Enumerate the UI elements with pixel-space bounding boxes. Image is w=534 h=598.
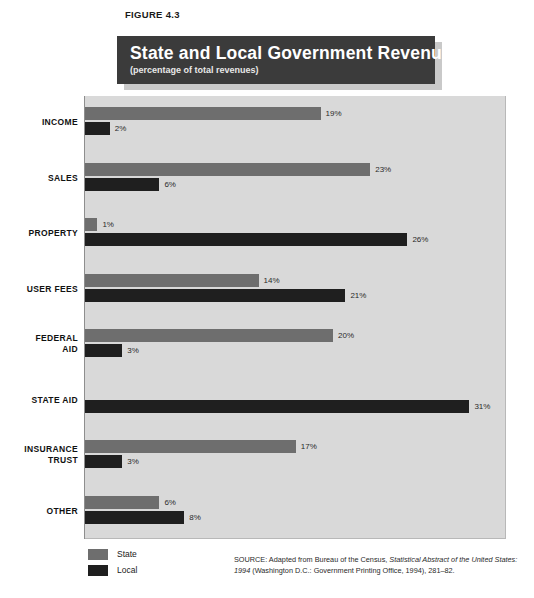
bar-state: 19% [85,107,342,120]
bar-state: 20% [85,329,354,342]
bar-rect-state [85,107,321,120]
bar-local: 3% [85,344,139,357]
figure-label: FIGURE 4.3 [125,9,180,20]
bar-value-label: 20% [338,331,354,340]
bar-local: 26% [85,233,428,246]
bar-rect-state [85,218,97,231]
bar-row: STATE AID31% [0,378,534,422]
category-label: STATE AID [0,394,78,405]
bar-row: PROPERTY1%26% [0,211,534,255]
bar-value-label: 14% [264,276,280,285]
bar-value-label: 3% [127,346,139,355]
bar-value-label: 1% [102,220,114,229]
bar-row: FEDERALAID20%3% [0,322,534,366]
bar-rect-state [85,163,370,176]
bar-value-label: 31% [474,402,490,411]
bar-state: 6% [85,496,176,509]
bar-row: INCOME19%2% [0,100,534,144]
bar-value-label: 6% [164,180,176,189]
category-label: USER FEES [0,283,78,294]
bar-local: 31% [85,400,490,413]
bar-row: USER FEES14%21% [0,267,534,311]
category-label: PROPERTY [0,228,78,239]
bar-rect-local [85,178,159,191]
bar-rect-state [85,496,159,509]
legend-item: State [88,547,137,561]
bar-value-label: 6% [164,498,176,507]
chart-title: State and Local Government Revenues [130,43,435,63]
bar-local: 6% [85,178,176,191]
bar-rect-local [85,511,184,524]
bar-state: 23% [85,163,391,176]
legend-swatch-local [88,565,108,576]
bar-rect-local [85,233,407,246]
bar-row: OTHER6%8% [0,489,534,533]
category-label: FEDERALAID [0,333,78,355]
bar-value-label: 3% [127,457,139,466]
source-prefix: SOURCE: Adapted from Bureau of the Censu… [234,555,389,564]
bar-state: 1% [85,218,114,231]
category-label: INCOME [0,117,78,128]
bar-row: SALES23%6% [0,156,534,200]
legend-swatch-state [88,549,108,560]
bar-rect-state [85,440,296,453]
bar-value-label: 19% [326,109,342,118]
bar-local: 21% [85,289,366,302]
legend-item: Local [88,563,137,577]
bar-value-label: 8% [189,513,201,522]
bar-value-label: 2% [115,124,127,133]
category-label: INSURANCETRUST [0,444,78,466]
bar-state: 17% [85,440,317,453]
legend-label: Local [117,565,137,575]
bar-rect-local [85,455,122,468]
bar-value-label: 17% [301,442,317,451]
bar-local: 3% [85,455,139,468]
bar-row: INSURANCETRUST17%3% [0,433,534,477]
legend-label: State [117,549,137,559]
bar-rect-local [85,344,122,357]
source-suffix: (Washington D.C.: Government Printing Of… [250,566,454,575]
bar-rect-state [85,329,333,342]
bar-rect-state [85,274,259,287]
chart-legend: StateLocal [88,547,137,579]
bar-rect-local [85,289,345,302]
bar-value-label: 21% [350,291,366,300]
bar-rect-local [85,122,110,135]
category-label: SALES [0,172,78,183]
source-note: SOURCE: Adapted from Bureau of the Censu… [234,555,524,576]
bar-local: 2% [85,122,126,135]
bar-rect-local [85,400,469,413]
bar-value-label: 23% [375,165,391,174]
bar-state: 14% [85,274,280,287]
bar-value-label: 26% [412,235,428,244]
bar-local: 8% [85,511,201,524]
chart-subtitle: (percentage of total revenues) [130,64,435,77]
title-banner: State and Local Government Revenues (per… [117,36,435,84]
category-label: OTHER [0,505,78,516]
